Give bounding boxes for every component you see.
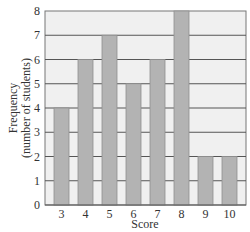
y-axis-label-line-2: (number of students) <box>19 58 33 158</box>
bar-score-3 <box>54 108 69 205</box>
y-tick-label: 7 <box>34 28 40 42</box>
bar-score-6 <box>126 84 141 205</box>
bar-chart: 012345678 345678910 Score Frequency (num… <box>0 0 250 232</box>
x-tick-label: 10 <box>224 207 236 221</box>
bar-score-8 <box>174 11 189 205</box>
x-tick-label: 3 <box>59 207 65 221</box>
y-tick-label: 8 <box>34 4 40 18</box>
x-tick-label: 9 <box>203 207 209 221</box>
y-tick-label: 5 <box>34 77 40 91</box>
y-tick-label: 6 <box>34 53 40 67</box>
y-tick-label: 1 <box>34 174 40 188</box>
x-tick-label: 5 <box>107 207 113 221</box>
y-axis-label: Frequency (number of students) <box>6 58 33 158</box>
bar-score-9 <box>198 157 213 206</box>
y-axis-ticks: 012345678 <box>34 4 40 212</box>
y-axis-label-line-1: Frequency <box>6 83 20 134</box>
bar-score-10 <box>222 157 237 206</box>
bar-score-5 <box>102 35 117 205</box>
bar-score-7 <box>150 60 165 206</box>
x-tick-label: 4 <box>83 207 89 221</box>
y-tick-label: 0 <box>34 198 40 212</box>
y-tick-label: 2 <box>34 150 40 164</box>
x-axis-label: Score <box>131 217 158 231</box>
y-tick-label: 3 <box>34 125 40 139</box>
x-tick-label: 8 <box>179 207 185 221</box>
bar-score-4 <box>78 60 93 206</box>
y-tick-label: 4 <box>34 101 40 115</box>
